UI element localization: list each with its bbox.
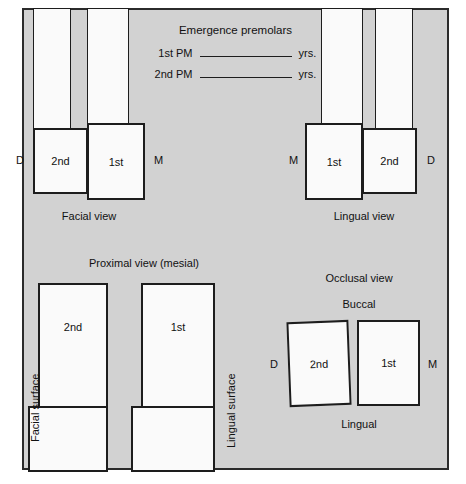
proximal-view-caption: Proximal view (mesial) [89,257,199,269]
proximal-2nd-label: 2nd [40,321,106,333]
occlusal-marker-mesial: M [428,358,437,370]
lingual-view-caption: Lingual view [334,210,395,222]
emergence-input-2nd-pm[interactable] [200,66,292,78]
proximal-2nd-crown[interactable]: 2nd [38,283,108,408]
proximal-lingual-surface-label: Lingual surface [225,373,237,448]
facial-1st-label: 1st [89,156,143,168]
proximal-facial-surface-label: Facial surface [29,374,41,442]
occlusal-1st-crown[interactable]: 1st [357,320,420,406]
proximal-1st-crown[interactable]: 1st [141,283,215,408]
facial-marker-mesial: M [154,154,163,166]
facial-2nd-root[interactable] [33,8,71,130]
facial-view-caption: Facial view [62,210,116,222]
lingual-marker-distal: D [427,154,435,166]
occlusal-2nd-crown[interactable]: 2nd [286,320,351,407]
facial-marker-distal: D [16,154,24,166]
lingual-marker-mesial: M [289,154,298,166]
occlusal-marker-buccal: Buccal [342,298,375,310]
lingual-2nd-label: 2nd [364,155,415,167]
occlusal-view-caption: Occlusal view [325,272,392,284]
facial-2nd-crown[interactable]: 2nd [33,128,88,194]
lingual-1st-crown[interactable]: 1st [305,123,363,200]
facial-2nd-label: 2nd [35,155,86,167]
occlusal-2nd-label: 2nd [290,356,348,370]
emergence-input-1st-pm[interactable] [200,45,292,57]
facial-1st-root[interactable] [87,8,129,132]
occlusal-marker-distal: D [270,358,278,370]
lingual-2nd-root[interactable] [375,8,413,130]
occlusal-marker-lingual: Lingual [341,418,376,430]
emergence-label-1st-pm: 1st PM [147,47,193,59]
occlusal-1st-label: 1st [359,357,418,369]
lingual-1st-label: 1st [307,156,361,168]
proximal-1st-label: 1st [143,321,213,333]
emergence-label-2nd-pm: 2nd PM [147,68,193,80]
lingual-1st-root[interactable] [321,8,363,132]
worksheet-frame: Emergence premolars 1st PM yrs. 2nd PM y… [22,8,449,470]
facial-1st-crown[interactable]: 1st [87,123,145,200]
proximal-1st-root[interactable] [131,406,215,472]
lingual-2nd-crown[interactable]: 2nd [362,128,417,194]
